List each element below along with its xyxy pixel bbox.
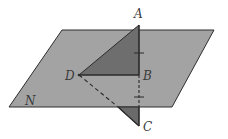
geometry-diagram: A B C D N	[0, 0, 228, 139]
label-b: B	[142, 69, 152, 83]
label-n: N	[24, 94, 36, 108]
label-d: D	[64, 69, 75, 83]
point-d	[78, 74, 81, 77]
label-c: C	[143, 120, 152, 134]
label-a: A	[133, 7, 143, 21]
